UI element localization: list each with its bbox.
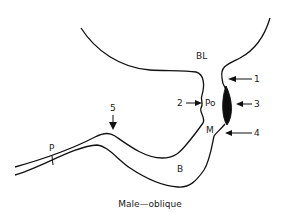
label-p: P: [49, 144, 54, 153]
label-bl: BL: [196, 52, 207, 61]
urethra-outline-lower: [15, 124, 225, 187]
arrow-label-3: 3: [254, 100, 260, 109]
arrow-5-head-icon: [109, 122, 117, 130]
arrow-label-4: 4: [254, 129, 260, 138]
diagram-canvas: BL Po M B P 1 2 3 4 5 Male—oblique: [0, 0, 286, 213]
arrow-2-head-icon: [195, 100, 202, 106]
arrow-1-head-icon: [228, 76, 236, 82]
arrow-label-1: 1: [254, 75, 260, 84]
label-b: B: [177, 165, 183, 174]
arrow-3-head-icon: [236, 101, 243, 107]
dark-filled-region: [223, 86, 232, 125]
bladder-outline-left: [15, 28, 204, 167]
arrow-label-5: 5: [110, 104, 116, 113]
label-m: M: [206, 126, 214, 135]
arrow-4-head-icon: [225, 130, 232, 136]
p-tick-mark: [52, 156, 53, 165]
bladder-outline-right: [222, 18, 270, 92]
label-po: Po: [205, 99, 216, 108]
arrow-label-2: 2: [177, 99, 183, 108]
figure-caption: Male—oblique: [0, 199, 286, 209]
diagram-drawing: [0, 0, 286, 213]
